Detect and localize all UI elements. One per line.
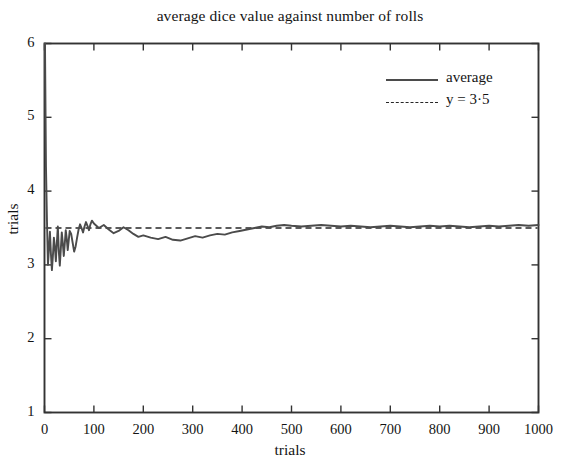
y-tick-label: 6	[11, 34, 35, 51]
legend-label-average: average	[446, 69, 493, 86]
y-tick-label: 3	[11, 255, 35, 272]
legend-item-average: average	[386, 69, 531, 91]
legend-swatch-solid-line	[386, 79, 438, 84]
x-tick-label: 1000	[509, 421, 569, 438]
chart-figure: average dice value against number of rol…	[0, 0, 580, 472]
y-tick-label: 4	[11, 181, 35, 198]
y-tick-label: 5	[11, 107, 35, 124]
legend-swatch-dashed-line	[386, 102, 438, 106]
chart-legend: average y = 3·5	[386, 69, 531, 113]
y-tick-label: 1	[11, 403, 35, 420]
legend-item-reference: y = 3·5	[386, 91, 531, 113]
legend-label-reference: y = 3·5	[446, 91, 489, 108]
y-tick-label: 2	[11, 329, 35, 346]
